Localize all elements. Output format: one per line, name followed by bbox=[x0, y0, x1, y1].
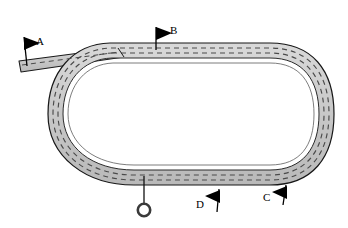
flag-label-c: C bbox=[263, 192, 270, 203]
flag-triangle-c bbox=[272, 186, 287, 199]
diagram-canvas: A B C D bbox=[0, 0, 348, 228]
flag-marker-d[interactable] bbox=[205, 189, 220, 212]
ring-marker[interactable] bbox=[138, 204, 150, 216]
flag-triangle-d bbox=[205, 190, 220, 203]
flag-label-b: B bbox=[170, 25, 177, 36]
flag-marker-c[interactable] bbox=[272, 185, 287, 205]
dashed-lane-markings bbox=[53, 48, 329, 180]
flag-label-d: D bbox=[196, 199, 204, 210]
oval-loop-road bbox=[48, 43, 334, 185]
flag-label-a: A bbox=[36, 36, 44, 47]
